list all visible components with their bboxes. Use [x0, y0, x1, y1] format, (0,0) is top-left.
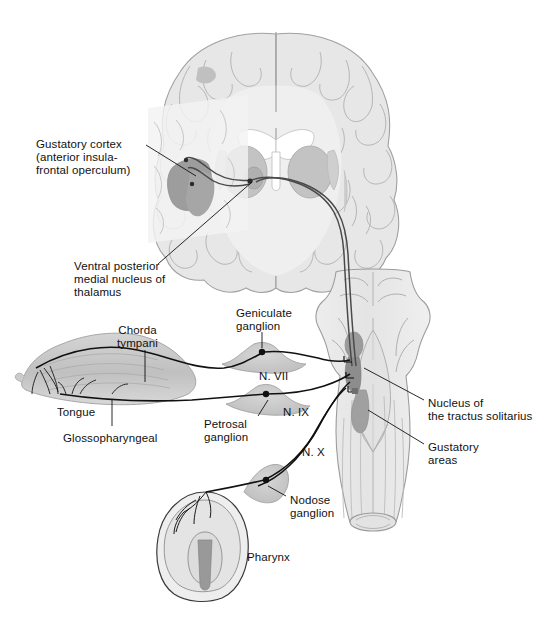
- label-nodose-ganglion: Nodose ganglion: [290, 494, 334, 520]
- label-nerve-ix: N. IX: [283, 406, 309, 419]
- cortical-terminal-dot: [184, 158, 188, 162]
- tongue-lateral-view: [15, 333, 196, 405]
- label-chorda-tympani: Chorda tympani: [117, 324, 158, 350]
- label-tongue: Tongue: [57, 406, 95, 419]
- gustatory-pathway-figure: Gustatory cortex (anterior insula- front…: [0, 0, 549, 619]
- label-petrosal-ganglion: Petrosal ganglion: [204, 418, 248, 444]
- pharynx: [157, 492, 248, 601]
- label-nucleus-tractus-solitarius: Nucleus of the tractus solitarius: [428, 397, 532, 423]
- cerebral-hemispheres-coronal-section: [148, 32, 399, 293]
- nts-marker: [352, 388, 358, 394]
- label-gustatory-cortex: Gustatory cortex (anterior insula- front…: [36, 138, 130, 178]
- label-gustatory-areas: Gustatory areas: [428, 441, 479, 467]
- brainstem-dorsal-view: [316, 269, 430, 531]
- label-nerve-x: N. X: [302, 446, 325, 459]
- label-pharynx: Pharynx: [247, 551, 290, 564]
- basal-ganglia-right: [288, 146, 332, 198]
- label-geniculate-ganglion: Geniculate ganglion: [236, 307, 292, 333]
- label-vpm-thalamus: Ventral posterior medial nucleus of thal…: [74, 260, 165, 300]
- thalamic-relay-dot: [247, 178, 252, 183]
- label-glossopharyngeal: Glossopharyngeal: [63, 432, 157, 445]
- cortical-terminal-dot-2: [190, 182, 194, 186]
- geniculate-ganglion: [222, 342, 306, 373]
- label-nerve-vii: N. VII: [259, 370, 288, 383]
